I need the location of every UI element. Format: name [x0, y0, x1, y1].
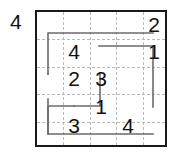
cell-r4c3[interactable]: 1	[88, 93, 114, 120]
cell-r2c2[interactable]: 4	[61, 38, 87, 65]
cell-r1c5[interactable]: 2	[141, 11, 167, 38]
cell-r2c5[interactable]: 1	[141, 38, 167, 65]
cell-r3c3[interactable]: 3	[88, 65, 114, 92]
gridline-horizontal-4	[37, 122, 165, 123]
puzzle-root: 4 2 1 4 2 3 1 3 4	[0, 0, 174, 158]
cell-r5c2[interactable]: 3	[61, 112, 87, 139]
cell-r5c4[interactable]: 4	[115, 112, 141, 139]
outside-clue-top-left: 4	[10, 11, 22, 32]
cell-r3c2[interactable]: 2	[61, 65, 87, 92]
